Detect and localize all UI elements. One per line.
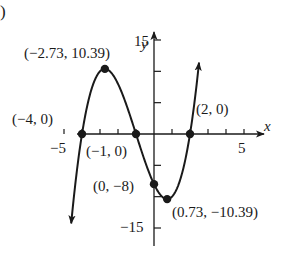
point-x-intercept-neg1 [132, 130, 140, 138]
point-label-x-intercept-neg4: (−4, 0) [12, 111, 53, 128]
point-local-max [101, 65, 109, 73]
y-tick-label-15: 15 [134, 33, 149, 49]
x-tick-label-neg5: −5 [50, 140, 66, 156]
graph-figure: ) x y −5 5 15 −15 (−4, 0) (−2.73, 10.39)… [0, 0, 291, 257]
point-label-y-intercept: (0, −8) [93, 178, 134, 195]
point-label-local-max: (−2.73, 10.39) [24, 45, 110, 62]
cubic-function-plot: ) x y −5 5 15 −15 (−4, 0) (−2.73, 10.39)… [0, 0, 291, 257]
point-label-x-intercept-2: (2, 0) [196, 101, 229, 118]
y-tick-label-neg15: −15 [120, 219, 143, 235]
point-label-x-intercept-neg1: (−1, 0) [86, 143, 127, 160]
point-x-intercept-2 [186, 130, 194, 138]
point-y-intercept [150, 180, 158, 188]
x-axis-label: x [263, 118, 271, 134]
panel-label: ) [0, 2, 6, 21]
point-label-local-min: (0.73, −10.39) [172, 204, 258, 221]
x-tick-label-5: 5 [238, 140, 246, 156]
point-x-intercept-neg4 [78, 130, 86, 138]
point-local-min [163, 195, 171, 203]
